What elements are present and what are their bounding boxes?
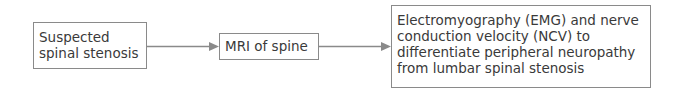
node-emg-ncv-testing: Electromyography (EMG) and nerve conduct…: [391, 5, 651, 88]
node-mri-of-spine: MRI of spine: [219, 33, 319, 60]
arrowhead-icon: [209, 42, 219, 51]
arrow-mri-to-emg: [319, 42, 391, 51]
arrowhead-icon: [381, 42, 391, 51]
node-suspected-spinal-stenosis: Suspected spinal stenosis: [33, 22, 147, 69]
arrow-suspected-to-mri: [147, 42, 219, 51]
